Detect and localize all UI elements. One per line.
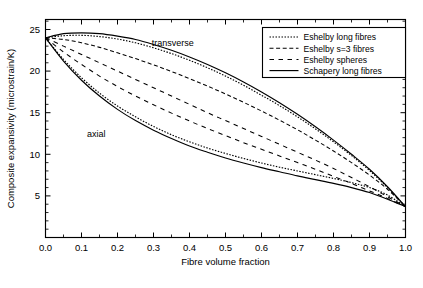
annotation-transverse: transverse [152,38,194,48]
legend-label-0: Eshelby long fibres [304,32,377,42]
y-tick-label: 10 [29,149,40,160]
x-tick-label: 0.0 [39,242,52,253]
y-tick-label: 5 [35,190,40,201]
y-tick-label: 25 [29,24,40,35]
y-tick-label: 15 [29,107,40,118]
chart-figure: 0.00.10.20.30.40.50.60.70.80.91.05101520… [0,0,423,288]
x-tick-label: 0.9 [363,242,376,253]
y-axis-title: Composite expansivity (microstrain/K) [5,49,16,208]
x-tick-label: 1.0 [399,242,412,253]
legend-label-1: Eshelby s=3 fibres [304,44,374,54]
annotation-axial: axial [87,129,106,139]
x-tick-label: 0.7 [291,242,304,253]
legend-label-3: Schapery long fibres [304,66,382,76]
x-tick-label: 0.5 [219,242,232,253]
x-tick-label: 0.6 [255,242,268,253]
x-axis-title: Fibre volume fraction [181,256,270,267]
x-tick-label: 0.8 [327,242,340,253]
x-tick-label: 0.4 [183,242,196,253]
legend-label-2: Eshelby spheres [304,55,368,65]
x-tick-label: 0.2 [111,242,124,253]
chart-canvas: 0.00.10.20.30.40.50.60.70.80.91.05101520… [0,0,423,288]
x-tick-label: 0.1 [75,242,88,253]
x-tick-label: 0.3 [147,242,160,253]
y-tick-label: 20 [29,65,40,76]
